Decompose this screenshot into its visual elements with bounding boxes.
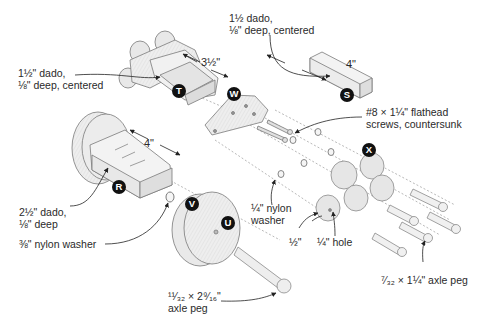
badge-t: T — [172, 84, 186, 98]
diagram-canvas: 1½" dado, ⅛" deep, centered 3½" 1½ dado,… — [0, 0, 484, 329]
r-dado-line2: ⅛" deep — [19, 218, 67, 230]
long-axle-peg — [234, 247, 291, 293]
badge-s: S — [340, 88, 354, 102]
screws-line1: #8 × 1¼" flathead — [366, 106, 462, 118]
r-dado-line1: 2½" dado, — [19, 206, 67, 218]
small-washer-line2: washer — [251, 214, 292, 226]
t-length-dimension: 3½" — [201, 56, 220, 68]
s-length-dimension: 4" — [346, 58, 356, 70]
s-dado-label: 1½ dado, ⅛" deep, centered — [229, 12, 314, 36]
long-peg-label: ¹¹⁄₃₂ × 2⁹⁄₁₆" axle peg — [168, 290, 221, 314]
t-dado-line2: ⅛" deep, centered — [18, 79, 103, 91]
small-washer-line1: ¼" nylon — [251, 202, 292, 214]
short-peg-label: ⁷⁄₃₂ × 1¼" axle peg — [381, 274, 468, 286]
s-dado-line1: 1½ dado, — [229, 12, 314, 24]
long-peg-line1: ¹¹⁄₃₂ × 2⁹⁄₁₆" — [168, 290, 221, 302]
r-length-dimension: 4" — [144, 137, 154, 149]
s-dado-line2: ⅛" deep, centered — [229, 24, 314, 36]
badge-u: U — [221, 216, 235, 230]
badge-w: W — [227, 87, 241, 101]
screws-label: #8 × 1¼" flathead screws, countersunk — [366, 106, 462, 130]
quarter-hole-label: ¼" hole — [317, 236, 352, 248]
badge-v: V — [185, 197, 199, 211]
half-inch-label: ½" — [289, 236, 301, 248]
small-washer-label: ¼" nylon washer — [251, 202, 292, 226]
big-washer — [166, 192, 174, 202]
long-peg-line2: axle peg — [168, 302, 221, 314]
part-t-assembly — [119, 31, 218, 105]
small-washers — [278, 129, 334, 178]
badge-r: R — [112, 180, 126, 194]
big-washer-label: ⅜" nylon washer — [19, 238, 96, 250]
t-dado-label: 1½" dado, ⅛" deep, centered — [18, 67, 103, 91]
r-dado-label: 2½" dado, ⅛" deep — [19, 206, 67, 230]
part-x-wheels — [316, 153, 394, 221]
t-dado-line1: 1½" dado, — [18, 67, 103, 79]
badge-x: X — [362, 143, 376, 157]
screws-line2: screws, countersunk — [366, 118, 462, 130]
